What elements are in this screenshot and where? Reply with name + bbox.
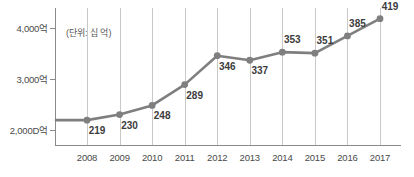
data-label-2014: 353 bbox=[284, 34, 301, 45]
gridline-2017 bbox=[380, 8, 381, 145]
data-label-2010: 248 bbox=[154, 110, 171, 121]
gridline-2013 bbox=[250, 8, 251, 145]
data-label-2017: 419 bbox=[382, 1, 399, 12]
data-label-2011: 289 bbox=[186, 90, 203, 101]
gridline-2014 bbox=[282, 8, 283, 145]
data-label-2012: 346 bbox=[219, 61, 236, 72]
data-label-2013: 337 bbox=[251, 65, 268, 76]
x-tick-label-2013: 2013 bbox=[240, 152, 260, 163]
y-axis-labels: 4,000억3,000억2,000D억 bbox=[0, 0, 48, 177]
data-label-2009: 230 bbox=[121, 120, 138, 131]
y-tick-label: 3,000억 bbox=[16, 72, 48, 86]
x-tick-label-2012: 2012 bbox=[207, 152, 227, 163]
y-tick-mark bbox=[50, 28, 56, 29]
x-tick-label-2011: 2011 bbox=[175, 152, 195, 163]
y-tick-label: 4,000억 bbox=[16, 21, 48, 35]
data-label-2016: 385 bbox=[349, 18, 366, 29]
line-chart: 4,000억3,000억2,000D억 (단위: 십 억) 2008200920… bbox=[0, 0, 414, 177]
x-tick-label-2008: 2008 bbox=[77, 152, 97, 163]
y-tick-mark bbox=[50, 79, 56, 80]
y-tick-label: 2,000D억 bbox=[10, 123, 48, 137]
x-tick-label-2010: 2010 bbox=[142, 152, 162, 163]
y-tick-mark bbox=[50, 130, 56, 131]
x-axis-line bbox=[55, 145, 401, 146]
gridline-2010 bbox=[152, 8, 153, 145]
gridline-2012 bbox=[217, 8, 218, 145]
x-tick-label-2014: 2014 bbox=[272, 152, 292, 163]
data-label-2008: 219 bbox=[89, 125, 106, 136]
x-tick-label-2016: 2016 bbox=[337, 152, 357, 163]
gridline-2015 bbox=[315, 8, 316, 145]
data-label-2015: 351 bbox=[317, 35, 334, 46]
x-tick-label-2009: 2009 bbox=[109, 152, 129, 163]
x-tick-label-2017: 2017 bbox=[370, 152, 390, 163]
gridline-2011 bbox=[185, 8, 186, 145]
x-tick-label-2015: 2015 bbox=[305, 152, 325, 163]
